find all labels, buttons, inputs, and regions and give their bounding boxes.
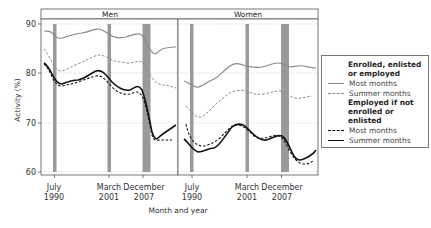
x-tick-women-2-line2: 2001	[237, 193, 257, 202]
y-tick-60: 60	[26, 168, 36, 177]
recession-bar-women-2007	[281, 24, 289, 172]
panel-title-men: Men	[102, 10, 118, 19]
recession-bar-men-2001	[108, 24, 112, 172]
y-tick-90: 90	[26, 20, 36, 29]
y-tick-70: 70	[26, 119, 36, 128]
x-tick-women-3-line1: December	[261, 183, 303, 192]
legend-swatch-dark-solid	[328, 140, 344, 141]
x-tick-men-3-line2: 2007	[134, 193, 154, 202]
x-tick-men-2-line2: 2001	[99, 193, 119, 202]
legend-swatch-light-solid	[328, 83, 344, 84]
x-tick-women-1-line2: 1990	[182, 193, 202, 202]
legend-label-g1-most: Most months	[349, 79, 397, 88]
legend-group2-title-line1: Employed if not	[322, 98, 428, 107]
legend-item-g2-summer: Summer months	[322, 135, 428, 145]
x-tick-women-2-line1: March	[235, 183, 259, 192]
legend-group1-title-line2: or employed	[322, 69, 428, 78]
panel-header-strip	[41, 9, 318, 19]
x-tick-women-1-line1: July	[184, 183, 200, 192]
legend-group1-title-line1: Enrolled, enlisted	[322, 60, 428, 69]
legend: Enrolled, enlisted or employed Most mont…	[321, 55, 429, 148]
x-tick-men-2-line1: March	[97, 183, 121, 192]
legend-group2-title-line2: enrolled or enlisted	[322, 107, 428, 125]
legend-swatch-light-dashed	[328, 93, 344, 94]
recession-bar-men-2007	[143, 24, 151, 172]
x-tick-men-3-line1: December	[123, 183, 165, 192]
legend-label-g1-summer: Summer months	[349, 89, 411, 98]
recession-bar-women-1990	[190, 24, 194, 172]
x-tick-men-1-line2: 1990	[44, 193, 64, 202]
legend-label-g2-most: Most months	[349, 126, 397, 135]
legend-item-g1-summer: Summer months	[322, 88, 428, 98]
recession-bar-women-2001	[246, 24, 250, 172]
legend-label-g2-summer: Summer months	[349, 136, 411, 145]
x-tick-men-1-line1: July	[46, 183, 62, 192]
y-axis-title: Activity (%)	[13, 78, 22, 121]
legend-item-g1-most: Most months	[322, 78, 428, 88]
x-axis-ticks	[55, 175, 282, 178]
recession-bar-men-1990	[53, 24, 57, 172]
legend-swatch-dark-dashed	[328, 130, 344, 131]
legend-item-g2-most: Most months	[322, 125, 428, 135]
y-axis-ticks	[38, 24, 41, 172]
x-tick-women-3-line2: 2007	[272, 193, 292, 202]
panel-title-women: Women	[234, 10, 262, 19]
y-tick-80: 80	[26, 69, 36, 78]
x-axis-title: Month and year	[148, 206, 208, 215]
